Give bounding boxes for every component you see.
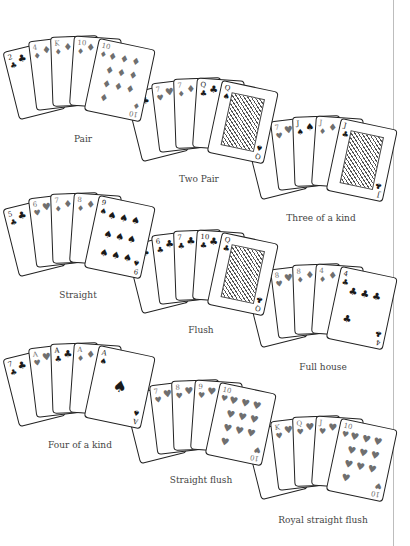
heart-icon: ♥ <box>367 464 378 476</box>
hand-label-three-of-a-kind: Three of a kind <box>286 213 355 223</box>
hand-pair: 2♣2♣♣4♦4♦♦K♦K♦♦10♦10♦♦10♦10♦♦♦♦♦♦♦♦♦♦♦ <box>20 36 140 146</box>
club-icon: ♣ <box>342 314 353 326</box>
diamond-icon: ♦ <box>305 271 314 279</box>
heart-icon: ♥ <box>358 447 369 459</box>
heart-icon: ♥ <box>246 428 257 440</box>
club-icon: ♣ <box>177 242 184 250</box>
diamond-icon: ♦ <box>113 81 124 93</box>
hand-four-of-a-kind: 7♣7♣♣A♥A♥♥A♣A♣♣A♦A♦♦A♠A♠♠ <box>20 343 140 453</box>
heart-icon: ♥ <box>33 209 41 218</box>
spade-icon: ♠ <box>296 128 303 136</box>
diamond-icon: ♦ <box>33 52 41 61</box>
heart-icon: ♥ <box>234 425 245 437</box>
club-icon: ♣ <box>54 355 61 363</box>
diamond-icon: ♦ <box>177 90 184 98</box>
spade-icon: ♠ <box>130 216 141 228</box>
heart-icon: ♥ <box>154 396 162 405</box>
club-icon: ♣ <box>9 368 18 377</box>
club-icon: ♣ <box>371 291 382 303</box>
diamond-icon: ♦ <box>125 84 136 96</box>
diamond-icon: ♦ <box>77 48 85 56</box>
diamond-icon: ♦ <box>101 79 112 91</box>
card-rank: Q <box>255 304 262 312</box>
club-icon: ♣ <box>374 180 383 189</box>
card-rank: 9 <box>133 267 139 275</box>
heart-icon: ♥ <box>240 398 251 410</box>
diamond-icon: ♦ <box>86 350 96 359</box>
heart-icon: ♥ <box>198 392 206 400</box>
spade-icon: ♠ <box>99 247 110 259</box>
heart-icon: ♥ <box>296 428 303 436</box>
club-icon: ♣ <box>200 242 208 250</box>
heart-icon: ♥ <box>346 445 357 457</box>
spade-icon: ♠ <box>126 234 137 246</box>
club-icon: ♣ <box>255 294 264 303</box>
spade-icon: ♠ <box>106 211 117 223</box>
diamond-icon: ♦ <box>104 65 115 77</box>
club-icon: ♣ <box>209 237 219 246</box>
spade-icon: ♠ <box>305 123 314 131</box>
heart-icon: ♥ <box>355 461 366 473</box>
heart-icon: ♥ <box>156 94 164 103</box>
club-icon: ♣ <box>9 61 18 70</box>
card-rank: A <box>132 417 138 425</box>
club-icon: ♣ <box>359 289 370 301</box>
club-icon: ♣ <box>17 54 28 64</box>
club-icon: ♣ <box>348 286 359 298</box>
diamond-icon: ♦ <box>119 54 130 66</box>
diamond-icon: ♦ <box>98 92 109 104</box>
spade-icon: ♠ <box>114 231 125 243</box>
club-icon: ♣ <box>200 90 208 98</box>
heart-icon: ♥ <box>225 409 236 421</box>
hand-label-flush: Flush <box>188 325 213 335</box>
diamond-icon: ♦ <box>116 67 127 79</box>
heart-icon: ♥ <box>349 431 360 443</box>
heart-icon: ♥ <box>175 392 182 400</box>
hand-label-four-of-a-kind: Four of a kind <box>48 440 112 450</box>
heart-icon: ♥ <box>372 436 383 448</box>
diamond-icon: ♦ <box>130 56 141 68</box>
spade-icon: ♠ <box>99 357 108 366</box>
hand-flush: 2♣2♣♣6♣6♣♣7♣7♣♣10♣10♣♣Q♣Q♣ <box>143 230 263 340</box>
diamond-icon: ♦ <box>86 200 96 209</box>
heart-icon: ♥ <box>370 450 381 462</box>
heart-icon: ♥ <box>237 411 248 423</box>
spade-icon: ♠ <box>118 213 129 225</box>
diamond-icon: ♦ <box>319 276 327 284</box>
club-icon: ♣ <box>17 211 28 221</box>
page-divider <box>393 0 394 546</box>
spade-icon: ♠ <box>110 250 121 262</box>
hand-label-pair: Pair <box>74 134 92 144</box>
diamond-icon: ♦ <box>319 128 327 136</box>
card-rank: Q <box>255 152 262 160</box>
heart-icon: ♥ <box>228 395 239 407</box>
heart-icon: ♥ <box>275 132 283 141</box>
card-rank: J <box>377 190 381 197</box>
heart-icon: ♥ <box>275 280 283 289</box>
hand-label-straight-flush: Straight flush <box>170 475 233 485</box>
spade-icon: ♠ <box>255 142 264 151</box>
hand-two-pair: 4♣4♣♣7♥7♥♥7♦7♦♦Q♣Q♣♣Q♠Q♠ <box>143 78 263 188</box>
diamond-icon: ♦ <box>77 355 85 363</box>
heart-icon: ♥ <box>361 434 372 446</box>
heart-icon: ♥ <box>207 387 217 396</box>
diamond-icon: ♦ <box>107 51 118 63</box>
hand-label-royal-straight-flush: Royal straight flush <box>278 515 367 525</box>
diamond-icon: ♦ <box>54 48 61 56</box>
heart-icon: ♥ <box>343 459 354 471</box>
club-icon: ♣ <box>209 85 219 94</box>
club-icon: ♣ <box>9 218 18 227</box>
diamond-icon: ♦ <box>54 205 61 213</box>
hand-straight-flush: 6♥6♥♥7♥7♥♥8♥8♥♥9♥9♥♥10♥10♥♥♥♥♥♥♥♥♥♥♥ <box>141 380 261 490</box>
hand-royal-straight-flush: A♥A♥♥K♥K♥♥Q♥Q♥♥J♥J♥♥10♥10♥♥♥♥♥♥♥♥♥♥♥ <box>262 416 382 526</box>
heart-icon: ♥ <box>275 432 283 441</box>
diamond-icon: ♦ <box>86 43 96 52</box>
hand-three-of-a-kind: 6♦6♦♦7♥7♥♥J♠J♠♠J♦J♦♦J♣J♣ <box>262 116 382 226</box>
card-rank: 4 <box>375 338 381 346</box>
hand-label-full-house: Full house <box>299 362 347 372</box>
heart-icon: ♥ <box>328 423 338 432</box>
diamond-icon: ♦ <box>77 205 85 213</box>
heart-icon: ♥ <box>219 436 230 448</box>
hand-label-straight: Straight <box>59 290 97 300</box>
diamond-icon: ♦ <box>296 276 303 284</box>
